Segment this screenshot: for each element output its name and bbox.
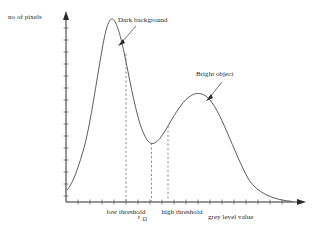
x-axis-title: grey level value: [208, 213, 254, 222]
y-axis-title: no of pixels: [8, 13, 42, 22]
threshold-lines-group: [126, 54, 168, 201]
y-axis-arrowhead-icon: [63, 11, 69, 20]
figure-canvas: [0, 0, 320, 237]
dark-background-leader-line: [122, 26, 136, 42]
high-threshold-label: high threshold: [158, 208, 206, 217]
dark-background-annotation: Dark background: [118, 16, 168, 25]
t-optimal-subscript: O: [140, 216, 147, 222]
bright-object-leader: [206, 82, 222, 101]
y-axis-group: [63, 11, 69, 202]
histogram-curve: [67, 19, 292, 202]
x-axis-arrowhead-icon: [297, 199, 306, 205]
bright-object-annotation: Bright object: [196, 70, 233, 79]
histogram-figure: no of pixels Dark background Bright obje…: [0, 0, 320, 237]
dark-background-leader: [118, 26, 136, 46]
x-axis-group: [66, 199, 306, 205]
bright-object-leader-line: [210, 82, 222, 97]
